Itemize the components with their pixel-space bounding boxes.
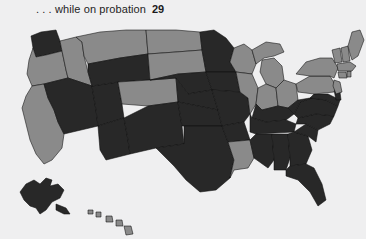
state-AK[interactable] bbox=[20, 178, 70, 214]
state-CO[interactable] bbox=[118, 78, 178, 106]
state-NY[interactable] bbox=[296, 58, 338, 78]
state-GA[interactable] bbox=[288, 132, 312, 166]
state-IN[interactable] bbox=[256, 84, 278, 110]
state-ME[interactable] bbox=[348, 30, 364, 60]
state-PA[interactable] bbox=[296, 76, 336, 94]
state-MI[interactable] bbox=[252, 42, 284, 88]
state-MS[interactable] bbox=[250, 134, 274, 168]
state-HI[interactable] bbox=[88, 210, 133, 235]
state-CT[interactable] bbox=[338, 72, 347, 78]
state-MN[interactable] bbox=[200, 30, 236, 72]
us-map-svg bbox=[0, 14, 366, 239]
state-FL[interactable] bbox=[286, 164, 326, 206]
infographic-map-panel: . . . while on probation 29 bbox=[0, 0, 366, 239]
state-shapes bbox=[20, 30, 364, 235]
us-choropleth-map bbox=[0, 14, 366, 239]
state-MA[interactable] bbox=[337, 62, 356, 71]
state-RI[interactable] bbox=[347, 71, 351, 77]
state-AL[interactable] bbox=[272, 134, 290, 170]
